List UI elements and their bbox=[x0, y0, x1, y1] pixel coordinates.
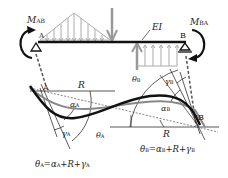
triangular-load bbox=[40, 13, 110, 41]
theta-b-label: θB bbox=[132, 75, 141, 84]
r-label-b: R bbox=[162, 129, 170, 139]
moment-ab-arrow bbox=[20, 26, 36, 58]
dashed-line-a bbox=[36, 54, 46, 86]
deflected-curve-secondary bbox=[30, 88, 205, 127]
node-b-label: B bbox=[198, 113, 204, 122]
alpha-a-label: αA bbox=[70, 100, 79, 109]
support-b bbox=[178, 43, 192, 52]
r-label-a: R bbox=[77, 80, 85, 90]
moment-ab-label: MAB bbox=[26, 15, 46, 25]
deflected-curve-main bbox=[30, 86, 200, 125]
node-a-label: A bbox=[42, 83, 49, 92]
slope-deflection-diagram: EI A B MAB MBA bbox=[0, 0, 228, 178]
gamma-b-label: γB bbox=[165, 77, 174, 86]
node-a-top-label: A bbox=[38, 32, 45, 40]
equation-theta-a: θA=αA+R+γA bbox=[35, 159, 90, 169]
gamma-a-label: γA bbox=[62, 129, 71, 138]
upward-load bbox=[132, 43, 179, 70]
moment-ba-label: MBA bbox=[189, 17, 209, 27]
theta-a-label: θA bbox=[96, 131, 105, 140]
point-load-down bbox=[107, 8, 117, 41]
moment-ba-arrow bbox=[188, 30, 204, 62]
ei-label: EI bbox=[151, 22, 163, 32]
alpha-b-label: αB bbox=[161, 104, 170, 113]
node-b-top-label: B bbox=[180, 31, 186, 40]
equation-theta-b: θB=αB+R+γB bbox=[140, 144, 195, 154]
support-a bbox=[31, 43, 41, 51]
